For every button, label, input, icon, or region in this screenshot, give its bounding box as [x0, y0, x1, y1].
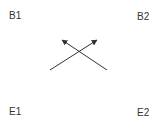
arrow-up-right-icon: [50, 40, 97, 70]
crossing-arrows-diagram: [0, 0, 160, 125]
arrow-up-left-icon: [62, 40, 107, 70]
